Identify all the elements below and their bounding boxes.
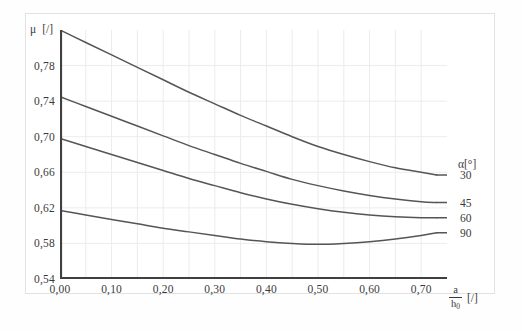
legend-item-30: 30 (460, 169, 472, 181)
chart-figure: 0,540,580,620,660,700,740,78 0,000,100,2… (0, 0, 522, 331)
x-tick-0,40: 0,40 (256, 283, 277, 295)
y-tick-0,78: 0,78 (34, 60, 55, 72)
x-tick-0,60: 0,60 (359, 283, 380, 295)
x-tick-0,50: 0,50 (308, 283, 329, 295)
x-tick-0,10: 0,10 (101, 283, 122, 295)
x-tick-0,30: 0,30 (204, 283, 225, 295)
x-axis-title-fraction: a h0 (449, 285, 462, 309)
x-axis-title-unit: [/] (467, 292, 478, 304)
y-tick-0,66: 0,66 (34, 166, 55, 178)
x-tick-0,00: 0,00 (50, 283, 71, 295)
y-axis-title-unit: [/] (42, 23, 53, 35)
curve-45 (60, 97, 437, 203)
y-tick-0,58: 0,58 (34, 237, 55, 249)
plot-area (60, 30, 447, 279)
x-axis-title: a h0 [/] (449, 286, 478, 310)
x-tick-0,70: 0,70 (411, 283, 432, 295)
legend-item-90: 90 (460, 227, 472, 239)
x-tick-0,20: 0,20 (153, 283, 174, 295)
y-tick-0,70: 0,70 (34, 131, 55, 143)
x-axis-title-numerator: a (451, 285, 460, 296)
legend-item-45: 45 (460, 197, 472, 209)
curve-30 (60, 30, 437, 175)
plot-svg (60, 30, 447, 279)
axis-lines (60, 30, 447, 279)
curve-60 (60, 138, 437, 217)
x-axis-tick-labels: 0,000,100,200,300,400,500,600,70 (0, 283, 522, 307)
x-axis-title-denominator: h0 (449, 299, 462, 310)
gridlines (60, 30, 447, 279)
y-tick-0,62: 0,62 (34, 202, 55, 214)
y-tick-0,74: 0,74 (34, 95, 55, 107)
y-axis-title: μ[/] (30, 23, 53, 35)
y-axis-title-symbol: μ (30, 23, 36, 35)
y-axis-tick-labels: 0,540,580,620,660,700,740,78 (0, 0, 55, 331)
legend-item-60: 60 (460, 212, 472, 224)
